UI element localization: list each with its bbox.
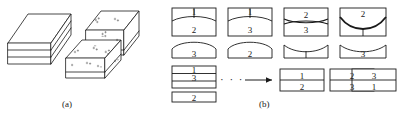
figure-svg: 1 2 3 1 3 2 2 3 2 3 1 3 2 1 2 2 3 3 1 · …	[0, 0, 399, 120]
result-1-bottom-label: 2	[300, 82, 305, 92]
result-2-bottom-label: 3	[350, 82, 355, 92]
ellipsis-label: · · ·	[220, 73, 244, 85]
step-4-lower-label: 3	[361, 49, 366, 59]
caption-a: (a)	[62, 99, 72, 109]
figure-container: 1 2 3 1 3 2 2 3 2 3 1 3 2 1 2 2 3 3 1 · …	[0, 0, 399, 120]
delaminated-lower-block	[66, 40, 121, 78]
result-3-bottom-label: 1	[372, 82, 377, 92]
result-1-top-label: 1	[300, 71, 305, 81]
result-2-top-label: 2	[350, 71, 355, 81]
step-2-lower-label: 2	[248, 49, 253, 59]
step-1-upper-top-label: 1	[192, 7, 197, 17]
step-4-upper-top-label: 2	[361, 9, 366, 19]
stack-row-2-label: 3	[192, 73, 197, 83]
transform-arrow	[245, 77, 272, 83]
step-1-lower-label: 3	[192, 49, 197, 59]
caption-b: (b)	[259, 99, 270, 109]
intact-laminate-block	[8, 14, 71, 64]
result-3-top-label: 3	[372, 71, 377, 81]
panel-a-group	[8, 11, 139, 78]
step-2-upper-top-label: 1	[248, 7, 253, 17]
stack-detached-label: 2	[192, 93, 197, 103]
step-3-upper-top-label: 2	[304, 10, 309, 20]
step-2-upper-bottom-label: 3	[248, 25, 253, 35]
step-3-upper-bottom-label: 3	[304, 25, 309, 35]
step-1-upper-bottom-label: 2	[192, 25, 197, 35]
